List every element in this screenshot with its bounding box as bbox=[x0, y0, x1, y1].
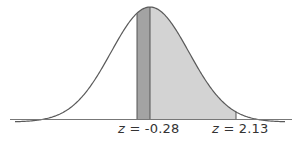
label-z-right: z = 2.13 bbox=[212, 121, 269, 136]
label-z-left-eq: = bbox=[129, 121, 140, 136]
label-z-left: z = -0.28 bbox=[118, 121, 179, 136]
label-z-right-value: 2.13 bbox=[239, 121, 269, 136]
shaded-area-dark bbox=[137, 7, 150, 119]
label-z-right-var: z bbox=[212, 121, 219, 136]
label-z-left-value: -0.28 bbox=[145, 121, 180, 136]
label-z-right-eq: = bbox=[223, 121, 234, 136]
label-z-left-var: z bbox=[118, 121, 125, 136]
